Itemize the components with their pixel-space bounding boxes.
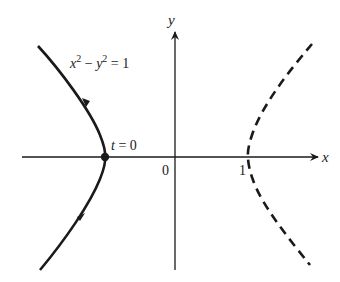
t-zero-label: t = 0 [111,138,137,153]
hyperbola-diagram: y x 0 1 x2 − y2 = 1 t = 0 [0,0,340,282]
left-branch-curve [38,46,105,270]
right-branch-curve [248,44,312,265]
origin-tick-label: 0 [162,163,169,178]
equation-label: x2 − y2 = 1 [69,53,129,71]
one-tick-label: 1 [239,163,246,178]
start-point-marker [101,153,109,161]
y-axis-label: y [166,12,175,28]
x-axis-label: x [321,149,329,165]
